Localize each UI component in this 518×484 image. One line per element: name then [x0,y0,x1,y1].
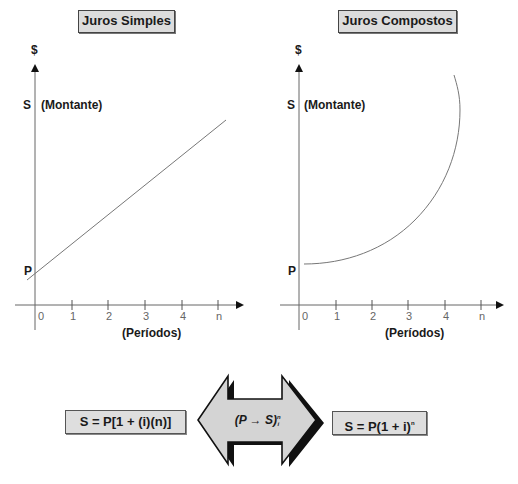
x-tick-label: 2 [366,310,380,322]
montante-label-compound: (Montante) [304,98,365,112]
y-axis-symbol-compound: $ [295,43,302,57]
formula-compound-base: S = P(1 + i) [344,419,410,434]
x-axis-label-simple: (Períodos) [122,326,181,340]
x-tick-label: 4 [176,310,190,322]
x-tick-label: 1 [66,310,80,322]
formula-simple: S = P[1 + (i)(n)] [65,410,186,434]
y-axis-symbol-simple: $ [31,43,38,57]
arrow-label-main: (P → S) [235,413,277,427]
s-label-compound: S [287,98,295,112]
p-label-compound: P [288,264,296,278]
x-tick-label: 0 [298,310,312,322]
simple-interest-line [27,120,226,280]
arrow-label-sup: n [277,414,281,420]
s-label-simple: S [23,98,31,112]
x-tick-label: 1 [330,310,344,322]
x-tick-label: 3 [402,310,416,322]
x-tick-label: n [212,310,226,322]
x-tick-label: 3 [139,310,153,322]
x-tick-label: 4 [439,310,453,322]
x-axis-label-compound: (Períodos) [385,326,444,340]
montante-label-simple: (Montante) [41,98,102,112]
p-label-simple: P [24,264,32,278]
x-tick-label: 2 [102,310,116,322]
formula-compound: S = P(1 + i)n [332,411,427,435]
arrow-label: (P → S)ni [222,413,292,427]
formula-compound-exponent: n [411,420,415,426]
arrow-label-sub: i [278,421,280,427]
x-tick-label: 0 [34,310,48,322]
x-tick-label: n [475,310,489,322]
